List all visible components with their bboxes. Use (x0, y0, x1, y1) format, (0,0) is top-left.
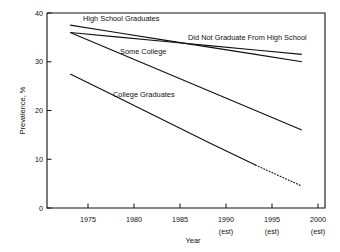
x-tick-est-2000: (est) (311, 227, 325, 236)
x-tick-label-1975: 1975 (80, 215, 96, 224)
annotation-high-school-graduates: High School Graduates (83, 14, 160, 23)
series-line-college-graduates-solid (70, 74, 255, 165)
x-tick-est-1990: (est) (219, 227, 233, 236)
y-axis-ticks (47, 13, 52, 208)
annotation-college-graduates: College Graduates (113, 90, 175, 99)
y-tick-label-20: 20 (35, 106, 43, 115)
annotation-did-not-graduate: Did Not Graduate From High School (188, 33, 307, 42)
series-line-some-college (70, 33, 302, 131)
series-annotations: High School Graduates Did Not Graduate F… (83, 14, 307, 99)
x-axis-title: Year (186, 236, 201, 245)
y-tick-label-30: 30 (35, 57, 43, 66)
y-tick-label-40: 40 (35, 9, 43, 18)
annotation-some-college: Some College (120, 47, 166, 56)
y-tick-label-0: 0 (39, 204, 43, 213)
series-lines (70, 25, 302, 186)
x-axis-ticks (88, 204, 318, 209)
chart-container: 40 30 20 10 0 Prevalence, % 1975 1980 19… (0, 0, 340, 252)
x-tick-label-2000: 2000 (310, 215, 326, 224)
y-axis-title: Prevalence, % (18, 86, 27, 134)
x-tick-label-1980: 1980 (126, 215, 142, 224)
series-line-college-graduates-dotted (256, 165, 302, 186)
y-tick-label-10: 10 (35, 155, 43, 164)
x-tick-est-1995: (est) (265, 227, 279, 236)
prevalence-by-education-line-chart: 40 30 20 10 0 Prevalence, % 1975 1980 19… (0, 0, 340, 252)
x-tick-label-1990: 1990 (218, 215, 234, 224)
x-tick-label-1995: 1995 (264, 215, 280, 224)
plot-frame (47, 13, 325, 208)
x-tick-label-1985: 1985 (172, 215, 188, 224)
